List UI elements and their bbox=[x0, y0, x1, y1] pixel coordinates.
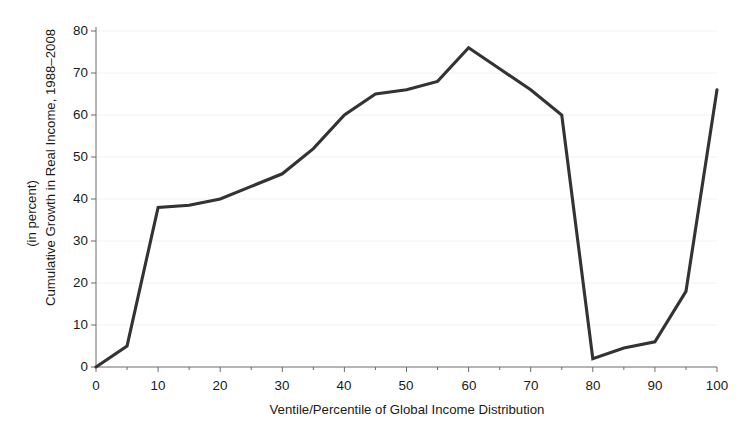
data-series-line bbox=[96, 48, 717, 367]
gridlines bbox=[96, 31, 717, 325]
income-growth-line-chart: Cumulative Growth in Real Income, 1988–2… bbox=[0, 0, 755, 437]
axis-lines bbox=[96, 27, 717, 367]
tick-marks bbox=[91, 31, 717, 372]
plot-area bbox=[0, 0, 755, 437]
